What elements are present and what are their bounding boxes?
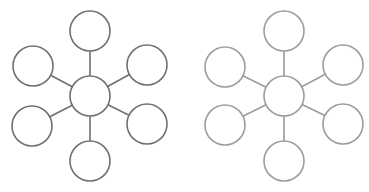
diagram-canvas xyxy=(0,0,369,192)
satellite-node-lower-right xyxy=(323,104,363,144)
hub-diagram-light xyxy=(205,11,363,181)
connector-line-upper-left xyxy=(51,75,73,86)
satellite-node-lower-left xyxy=(12,106,52,146)
connector-line-lower-right xyxy=(108,105,129,115)
hub-diagram-dark xyxy=(12,11,167,181)
hub-node xyxy=(70,76,110,116)
hub-and-spoke-diagrams xyxy=(0,0,369,192)
satellite-node-lower-left xyxy=(205,105,245,145)
satellite-node-upper-left xyxy=(205,47,245,87)
connector-line-upper-right xyxy=(302,74,326,86)
connector-line-lower-left xyxy=(243,105,266,116)
satellite-node-upper-right xyxy=(323,45,363,85)
connector-line-upper-right xyxy=(108,75,130,87)
satellite-node-bottom xyxy=(70,141,110,181)
hub-node xyxy=(264,76,304,116)
satellite-node-top xyxy=(70,11,110,51)
connector-line-lower-left xyxy=(50,105,72,117)
satellite-node-top xyxy=(264,11,304,51)
connector-line-lower-right xyxy=(302,105,325,116)
satellite-node-bottom xyxy=(264,141,304,181)
satellite-node-upper-left xyxy=(13,46,53,86)
satellite-node-lower-right xyxy=(127,104,167,144)
satellite-node-upper-right xyxy=(127,45,167,85)
connector-line-upper-left xyxy=(243,76,266,87)
